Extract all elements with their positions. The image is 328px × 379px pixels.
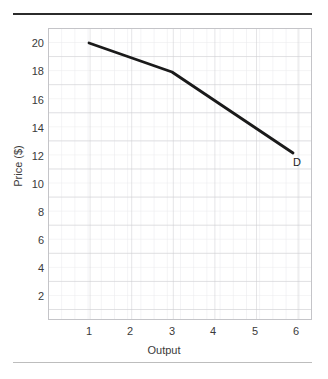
x-tick-1: 1	[79, 326, 99, 337]
demand-curve-label: D	[293, 157, 301, 168]
figure: 20 18 16 14 12 10 8 6 4 2 1 2 3 4 5 6 Ou…	[0, 0, 328, 379]
x-tick-2: 2	[120, 326, 140, 337]
x-tick-5: 5	[245, 326, 265, 337]
x-axis-title: Output	[0, 344, 328, 356]
y-tick-18: 18	[20, 66, 44, 77]
y-tick-4: 4	[20, 263, 44, 274]
major-gridlines	[48, 29, 312, 320]
y-tick-16: 16	[20, 95, 44, 106]
chart-svg	[48, 28, 312, 320]
y-tick-2: 2	[20, 291, 44, 302]
plot-area	[48, 28, 312, 320]
y-tick-8: 8	[20, 207, 44, 218]
x-tick-3: 3	[162, 326, 182, 337]
y-tick-20: 20	[20, 38, 44, 49]
y-axis-title: Price ($)	[12, 126, 24, 206]
x-tick-4: 4	[203, 326, 223, 337]
x-tick-6: 6	[286, 326, 306, 337]
top-divider-rule	[13, 13, 312, 15]
x-axis-tick-labels: 1 2 3 4 5 6	[0, 326, 328, 342]
y-tick-6: 6	[20, 235, 44, 246]
bottom-divider-rule	[13, 362, 312, 363]
